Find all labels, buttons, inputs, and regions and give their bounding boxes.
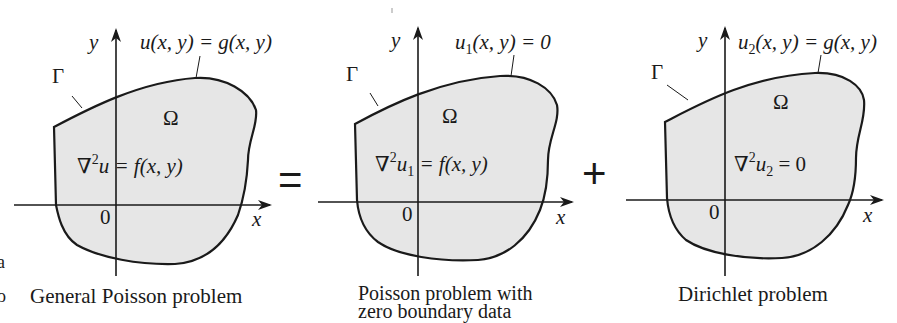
pde-equation: ∇2u = f(x, y): [77, 152, 183, 179]
nabla-symbol: ∇: [375, 152, 390, 176]
y-axis-label: y: [89, 30, 98, 55]
bc-lhs: u: [738, 30, 749, 54]
origin-label: 0: [100, 205, 111, 230]
equals-operator: =: [278, 156, 303, 204]
boundary-condition: u1(x, y) = 0: [455, 30, 551, 58]
boundary-leader-gamma: [667, 85, 688, 100]
boundary-gamma-label: Γ: [651, 60, 663, 85]
caption-general-poisson: General Poisson problem: [30, 288, 242, 305]
nabla-symbol: ∇: [77, 154, 92, 178]
pde-var: u: [397, 152, 408, 176]
x-axis-label: x: [863, 203, 872, 228]
nabla-symbol: ∇: [734, 152, 749, 176]
origin-label: 0: [402, 202, 413, 227]
pde-power: 2: [92, 152, 99, 167]
pde-rhs: = 0: [773, 152, 806, 176]
origin-label: 0: [709, 200, 720, 225]
bc-lhs: u: [455, 30, 466, 54]
caption-poisson-zero-boundary-line2: zero boundary data: [358, 303, 511, 320]
y-axis-label: y: [698, 28, 707, 53]
boundary-gamma-label: Γ: [346, 62, 358, 87]
boundary-gamma-label: Γ: [52, 64, 64, 89]
bc-rhs: (x, y) = g(x, y): [151, 30, 272, 54]
domain-omega-label: Ω: [163, 106, 179, 131]
bc-rhs: (x, y) = g(x, y): [756, 30, 877, 54]
x-axis-label: x: [252, 207, 261, 232]
margin-fragment: o: [0, 286, 6, 307]
bc-lhs: u: [140, 30, 151, 54]
caption-dirichlet: Dirichlet problem: [678, 286, 828, 303]
boundary-leader-gamma: [72, 96, 82, 108]
pde-var: u: [99, 154, 110, 178]
bc-lhs-subscript: 1: [466, 42, 473, 57]
pde-power: 2: [390, 150, 397, 165]
bc-lhs-subscript: 2: [749, 42, 756, 57]
boundary-condition-leader: [196, 56, 200, 78]
plus-operator: +: [582, 150, 607, 198]
domain-omega-label: Ω: [773, 90, 789, 115]
pde-power: 2: [749, 150, 756, 165]
pde-var: u: [756, 152, 767, 176]
boundary-leader-gamma: [370, 93, 378, 106]
margin-fragment: a: [0, 252, 5, 273]
bc-rhs: (x, y) = 0: [473, 30, 551, 54]
pde-equation: ∇2u2 = 0: [734, 150, 806, 180]
pde-rhs: = f(x, y): [414, 152, 488, 176]
pde-rhs: = f(x, y): [109, 154, 183, 178]
domain-omega-label: Ω: [442, 104, 458, 129]
boundary-condition: u(x, y) = g(x, y): [140, 30, 272, 55]
pde-equation: ∇2u1 = f(x, y): [375, 150, 488, 180]
boundary-condition-leader: [511, 55, 514, 76]
x-axis-label: x: [556, 205, 565, 230]
y-axis-label: y: [391, 28, 400, 53]
boundary-condition: u2(x, y) = g(x, y): [738, 30, 877, 58]
